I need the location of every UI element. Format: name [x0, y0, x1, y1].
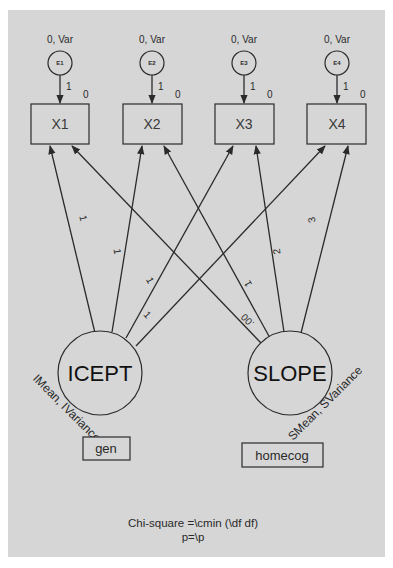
- error-label: E4: [333, 60, 341, 66]
- observed-label: X4: [328, 116, 345, 132]
- group-box-gen[interactable]: gen: [83, 437, 130, 460]
- error-label: E3: [240, 60, 248, 66]
- observed-node-x4[interactable]: X4: [307, 104, 366, 144]
- intercept-label: 0: [360, 89, 366, 100]
- intercept-label: 0: [83, 89, 89, 100]
- error-path-label: 1: [158, 81, 164, 92]
- error-param-label: 0, Var: [47, 34, 74, 45]
- observed-node-x1[interactable]: X1: [31, 104, 89, 144]
- diagram-panel: [8, 10, 385, 557]
- error-path-label: 1: [343, 81, 349, 92]
- error-path-label: 1: [66, 81, 72, 92]
- group-label: gen: [95, 441, 117, 456]
- observed-node-x2[interactable]: X2: [123, 104, 182, 144]
- chi-square-text: Chi-square =\cmin (\df df): [128, 517, 258, 529]
- error-param-label: 0, Var: [324, 34, 351, 45]
- error-param-label: 0, Var: [139, 34, 166, 45]
- observed-label: X1: [51, 116, 68, 132]
- observed-label: X3: [235, 116, 252, 132]
- observed-label: X2: [143, 116, 160, 132]
- p-value-text: p=\p: [182, 531, 205, 543]
- intercept-label: 0: [175, 89, 181, 100]
- latent-label: ICEPT: [68, 361, 133, 386]
- error-param-label: 0, Var: [231, 34, 258, 45]
- group-box-homecog[interactable]: homecog: [242, 443, 323, 467]
- observed-node-x3[interactable]: X3: [215, 104, 274, 144]
- group-label: homecog: [255, 448, 308, 463]
- error-label: E1: [56, 60, 64, 66]
- error-path-label: 1: [250, 81, 256, 92]
- error-label: E2: [148, 60, 156, 66]
- latent-label: SLOPE: [253, 361, 326, 386]
- intercept-label: 0: [267, 89, 273, 100]
- sem-diagram: 0, Var E1 1 0 0, Var E2 1 0 0, Var E3 1 …: [0, 0, 393, 568]
